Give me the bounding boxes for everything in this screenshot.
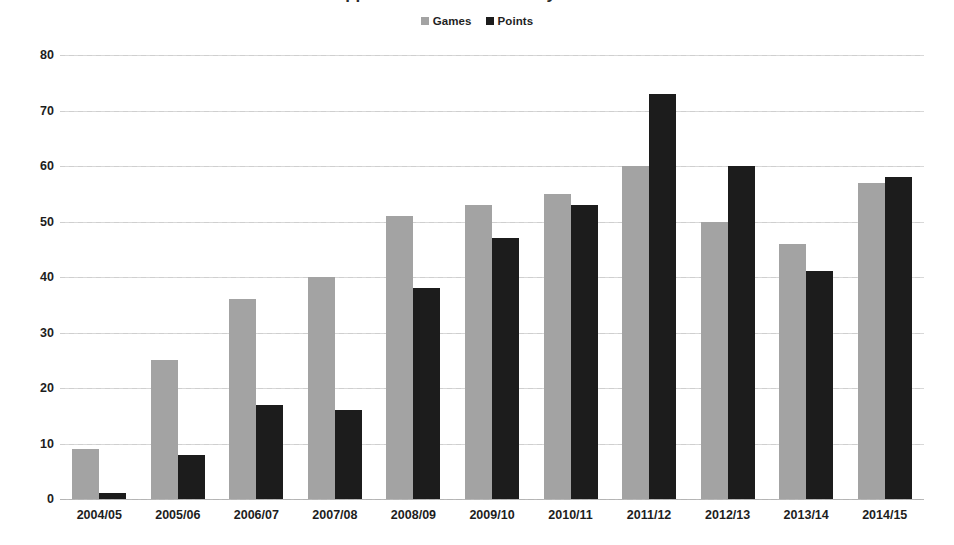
bar-group: [229, 55, 283, 499]
bar-group: [72, 55, 126, 499]
plot-area: [60, 55, 924, 499]
bar-points-2008-09[interactable]: [413, 288, 440, 499]
y-axis-tick-label: 40: [8, 270, 54, 284]
bar-points-2009-10[interactable]: [492, 238, 519, 499]
bar-group: [544, 55, 598, 499]
y-axis-tick-label: 60: [8, 159, 54, 173]
bar-games-2008-09[interactable]: [386, 216, 413, 499]
bar-group: [701, 55, 755, 499]
bar-group: [779, 55, 833, 499]
y-axis-tick-label: 30: [8, 326, 54, 340]
bar-games-2012-13[interactable]: [701, 222, 728, 500]
x-axis-tick-label: 2014/15: [825, 508, 945, 522]
y-axis-tick-label: 10: [8, 437, 54, 451]
y-axis-tick-label: 80: [8, 48, 54, 62]
bar-games-2009-10[interactable]: [465, 205, 492, 499]
bar-games-2004-05[interactable]: [72, 449, 99, 499]
bar-group: [308, 55, 362, 499]
bar-games-2013-14[interactable]: [779, 244, 806, 499]
y-axis-tick-label: 0: [8, 492, 54, 506]
bar-group: [386, 55, 440, 499]
bar-games-2006-07[interactable]: [229, 299, 256, 499]
bar-group: [465, 55, 519, 499]
bar-games-2014-15[interactable]: [858, 183, 885, 499]
bar-chart: 010203040506070802004/052005/062006/0720…: [0, 0, 954, 545]
bar-games-2007-08[interactable]: [308, 277, 335, 499]
bar-points-2013-14[interactable]: [806, 271, 833, 499]
bar-points-2007-08[interactable]: [335, 410, 362, 499]
bar-group: [622, 55, 676, 499]
bar-points-2011-12[interactable]: [649, 94, 676, 499]
bar-points-2006-07[interactable]: [256, 405, 283, 499]
bar-points-2004-05[interactable]: [99, 493, 126, 499]
bar-points-2012-13[interactable]: [728, 166, 755, 499]
bar-group: [151, 55, 205, 499]
bar-points-2010-11[interactable]: [571, 205, 598, 499]
bar-points-2005-06[interactable]: [178, 455, 205, 499]
bar-points-2014-15[interactable]: [885, 177, 912, 499]
y-axis-tick-label: 50: [8, 215, 54, 229]
y-axis-tick-label: 70: [8, 104, 54, 118]
bar-games-2005-06[interactable]: [151, 360, 178, 499]
y-axis-tick-label: 20: [8, 381, 54, 395]
bar-group: [858, 55, 912, 499]
bar-games-2010-11[interactable]: [544, 194, 571, 499]
gridline: [60, 499, 924, 500]
bar-games-2011-12[interactable]: [622, 166, 649, 499]
